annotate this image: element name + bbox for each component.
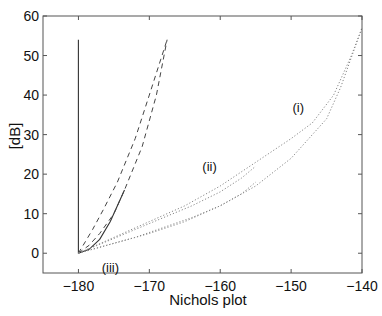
curve-annotation-label: (i) <box>292 100 304 115</box>
y-tick-label: 30 <box>23 127 39 143</box>
plot-area <box>78 28 362 253</box>
y-tick-label: 10 <box>23 206 39 222</box>
y-tick-label: 60 <box>23 8 39 24</box>
x-tick-label: −150 <box>275 278 307 294</box>
x-tick-label: −140 <box>346 278 378 294</box>
series-line-4 <box>78 28 362 253</box>
series-line-3 <box>78 40 167 254</box>
y-tick-label: 40 <box>23 87 39 103</box>
x-axis-label: Nichols plot <box>169 291 247 308</box>
nichols-chart: −180−170−160−150−140 0102030405060 (i)(i… <box>0 0 382 316</box>
series-line-1 <box>78 190 124 253</box>
y-tick-label: 0 <box>31 245 39 261</box>
y-axis-ticks: 0102030405060 <box>23 8 362 261</box>
series-line-2 <box>78 40 167 254</box>
series-line-5 <box>78 28 362 253</box>
curve-annotation-label: (ii) <box>202 159 216 174</box>
y-tick-label: 50 <box>23 48 39 64</box>
series-line-6 <box>78 166 255 253</box>
series-line-7 <box>78 182 255 253</box>
curve-annotation-label: (iii) <box>102 260 119 275</box>
x-tick-label: −180 <box>63 278 95 294</box>
x-axis-ticks: −180−170−160−150−140 <box>63 16 378 294</box>
y-tick-label: 20 <box>23 166 39 182</box>
x-tick-label: −170 <box>134 278 166 294</box>
curve-annotations: (i)(ii)(iii) <box>102 100 304 275</box>
y-axis-label: [dB] <box>6 123 23 150</box>
axes-frame <box>43 16 362 273</box>
nichols-chart-figure: −180−170−160−150−140 0102030405060 (i)(i… <box>0 0 382 316</box>
